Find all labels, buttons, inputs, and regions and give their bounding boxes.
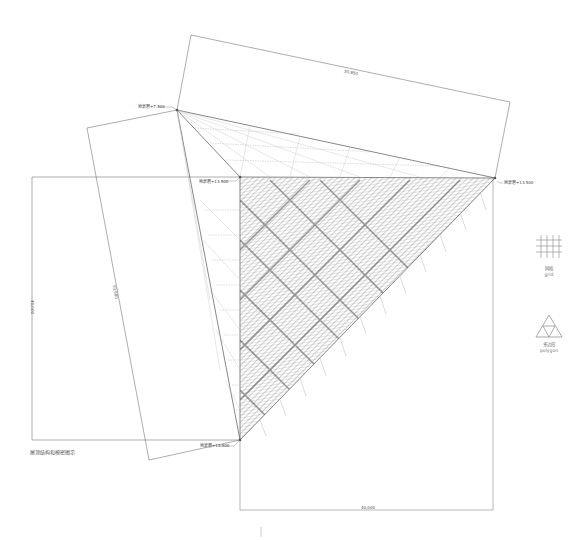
elevation-label-bottom: 地景層+13.500 <box>200 444 229 448</box>
grid-icon <box>536 235 562 258</box>
elevation-label-right: 地景層+13.500 <box>504 181 533 185</box>
top-dimension-frame <box>177 35 510 178</box>
polygon-icon <box>536 315 562 337</box>
elevation-label-left-mid: 地景層+13.500 <box>199 180 228 184</box>
legend-grid-en: grid <box>534 272 564 278</box>
legend-polygon: 多边形 polygon <box>534 342 564 353</box>
elevation-label-top-left: 地景層+7.500 <box>138 105 165 109</box>
legend-polygon-en: polygon <box>534 348 564 354</box>
left-dimension-frame <box>32 177 240 440</box>
dimension-bottom: 40,000 <box>361 506 375 510</box>
dimension-left: 40,000 <box>30 300 34 314</box>
diagram-caption: 屋顶结构和模密图示 <box>30 448 75 455</box>
legend-grid: 网格 grid <box>534 266 564 277</box>
roof-structure-diagram <box>0 0 578 540</box>
